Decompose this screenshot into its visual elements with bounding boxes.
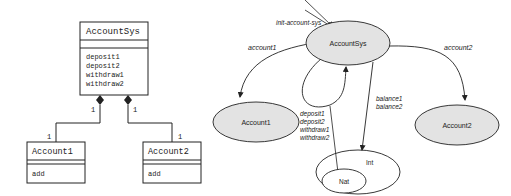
class-name: AccountSys	[86, 27, 140, 37]
edge-label-op: deposit1	[300, 110, 325, 118]
edge-label-account1: account1	[248, 44, 277, 51]
node-label: Nat	[339, 178, 349, 185]
multiplicity: 1	[47, 133, 51, 141]
multiplicity: 1	[91, 106, 95, 114]
edge-label-balance: balance2	[376, 103, 403, 110]
class-accountsys[interactable]: AccountSys deposit1 deposit2 withdraw1 w…	[80, 22, 148, 95]
edge-ops-loop	[302, 58, 346, 107]
edge-label-op: withdraw2	[300, 134, 330, 141]
method: withdraw1	[86, 71, 124, 79]
method: add	[148, 170, 161, 178]
method: withdraw2	[86, 80, 124, 88]
class-account2[interactable]: Account2 add	[143, 142, 201, 183]
sort-graph: init-account-sys account1 account2 depos…	[213, 0, 499, 194]
node-account2[interactable]: Account2	[415, 105, 499, 145]
diamond-icon	[124, 95, 132, 105]
edge-balances	[362, 62, 373, 150]
class-name: Account1	[32, 147, 73, 157]
method: deposit2	[86, 62, 120, 70]
node-label: Account1	[241, 119, 270, 126]
method: add	[32, 170, 45, 178]
diamond-icon	[96, 95, 104, 105]
edge-label-op: withdraw1	[300, 126, 330, 133]
init-label: init-account-sys	[276, 19, 322, 27]
multiplicity: 1	[178, 133, 182, 141]
multiplicity: 1	[133, 106, 137, 114]
node-label: Int	[366, 159, 373, 166]
method: deposit1	[86, 53, 120, 61]
node-label: Account2	[442, 122, 471, 129]
edge-label-op: deposit2	[300, 118, 325, 126]
composition-account1: 1 1	[47, 95, 104, 142]
node-label: AccountSys	[330, 40, 367, 48]
diagram-canvas: AccountSys deposit1 deposit2 withdraw1 w…	[0, 0, 511, 196]
edge-account2	[389, 46, 465, 100]
node-accountsys[interactable]: AccountSys	[306, 21, 390, 65]
uml-class-diagram: AccountSys deposit1 deposit2 withdraw1 w…	[27, 22, 201, 183]
edge-label-account2: account2	[444, 44, 473, 51]
node-account1[interactable]: Account1	[213, 102, 299, 142]
class-account1[interactable]: Account1 add	[27, 142, 85, 183]
composition-account2: 1 1	[124, 95, 182, 142]
class-name: Account2	[148, 147, 189, 157]
edge-label-balance: balance1	[376, 95, 403, 102]
node-nat[interactable]: Nat	[322, 169, 366, 193]
